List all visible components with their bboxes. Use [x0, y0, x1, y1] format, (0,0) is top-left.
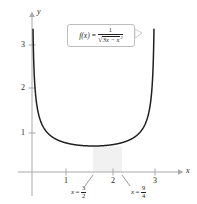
leader-line-upper — [122, 175, 130, 186]
y-axis-label: y — [37, 8, 41, 16]
callout-tail — [135, 29, 142, 38]
annotation-upper-equals: = — [134, 188, 141, 196]
annotation-upper-denominator: 4 — [142, 193, 145, 200]
leader-line-lower — [85, 175, 93, 186]
y-tick-label-3: 3 — [21, 41, 25, 49]
formula-callout: f(x) = 1 √ 3x − x2 — [67, 24, 135, 47]
x-axis-arrow — [178, 169, 184, 175]
annotation-lower-equals: = — [74, 188, 81, 196]
figure-canvas: y x 1 2 3 1 2 3 x = 3 2 x = 9 4 f(x) = 1 — [0, 0, 197, 204]
formula-numerator: 1 — [109, 27, 112, 34]
annotation-upper-fraction: 9 4 — [141, 185, 146, 200]
annotation-upper-limit: x = 9 4 — [131, 185, 146, 200]
formula-function-name: f(x) — [79, 31, 89, 40]
x-tick-label-2: 2 — [111, 177, 115, 185]
annotation-lower-denominator: 2 — [82, 193, 85, 200]
formula-denominator: √ 3x − x2 — [98, 35, 123, 44]
shaded-region — [93, 147, 122, 173]
formula-fraction: 1 √ 3x − x2 — [98, 27, 123, 43]
y-tick-label-2: 2 — [21, 84, 25, 92]
formula-equals: = — [90, 31, 98, 40]
annotation-lower-limit: x = 3 2 — [71, 185, 86, 200]
annotation-upper-numerator: 9 — [142, 185, 145, 192]
formula-radicand-exponent: 2 — [120, 36, 122, 41]
y-axis-arrow — [29, 12, 35, 18]
formula-radicand: 3x − x — [102, 36, 120, 44]
y-tick-label-1: 1 — [21, 129, 25, 137]
x-tick-label-1: 1 — [64, 177, 68, 185]
formula-expression: f(x) = 1 √ 3x − x2 — [68, 25, 134, 46]
annotation-lower-numerator: 3 — [82, 185, 85, 192]
x-tick-label-3: 3 — [153, 177, 157, 185]
annotation-lower-fraction: 3 2 — [81, 185, 86, 200]
x-axis-label: x — [186, 167, 190, 175]
